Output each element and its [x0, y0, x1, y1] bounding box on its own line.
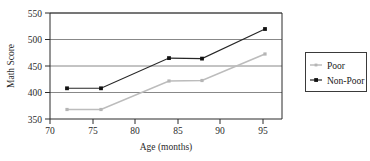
legend: Poor Non-Poor [306, 53, 367, 92]
series-non-poor-point-72 [65, 86, 69, 90]
series-non-poor-line [67, 29, 265, 88]
x-axis-tick-labels: 70 75 80 85 90 95 [45, 126, 268, 136]
series-non-poor-point-84 [167, 56, 171, 60]
series-non-poor-point-76 [99, 86, 103, 90]
series-non-poor [65, 27, 267, 90]
series-non-poor-point-96 [263, 27, 267, 31]
series-poor [65, 52, 266, 111]
series-poor-point-96 [263, 52, 266, 55]
series-poor-line [67, 54, 265, 110]
y-axis-ticks [45, 13, 50, 119]
series-poor-point-84 [167, 79, 170, 82]
x-axis-ticks [50, 119, 263, 124]
x-tick-label-75: 75 [88, 126, 98, 136]
legend-swatch-non-poor-marker [314, 78, 318, 82]
legend-swatch-poor-marker [315, 64, 318, 67]
x-tick-label-80: 80 [130, 126, 140, 136]
y-tick-label-450: 450 [28, 62, 43, 72]
x-tick-label-85: 85 [173, 126, 183, 136]
legend-label-non-poor: Non-Poor [327, 76, 365, 86]
y-axis-tick-labels: 550 500 450 400 350 [28, 9, 43, 125]
y-tick-label-350: 350 [28, 115, 43, 125]
series-poor-point-76 [99, 108, 102, 111]
math-score-by-age-chart: 550 500 450 400 350 70 75 80 85 90 95 Ma… [0, 0, 370, 161]
y-tick-label-400: 400 [28, 88, 43, 98]
series-non-poor-point-88 [200, 57, 204, 61]
legend-label-poor: Poor [327, 61, 346, 71]
legend-box [306, 53, 367, 92]
y-axis-title: Math Score [6, 44, 16, 88]
series-poor-point-88 [200, 79, 203, 82]
x-axis-title: Age (months) [140, 142, 193, 153]
y-tick-label-550: 550 [28, 9, 43, 19]
x-tick-label-95: 95 [258, 126, 268, 136]
x-tick-label-70: 70 [45, 126, 55, 136]
gridlines [50, 13, 282, 93]
y-tick-label-500: 500 [28, 35, 43, 45]
series-poor-point-72 [65, 108, 68, 111]
x-tick-label-90: 90 [215, 126, 225, 136]
chart-svg: 550 500 450 400 350 70 75 80 85 90 95 Ma… [0, 0, 370, 161]
